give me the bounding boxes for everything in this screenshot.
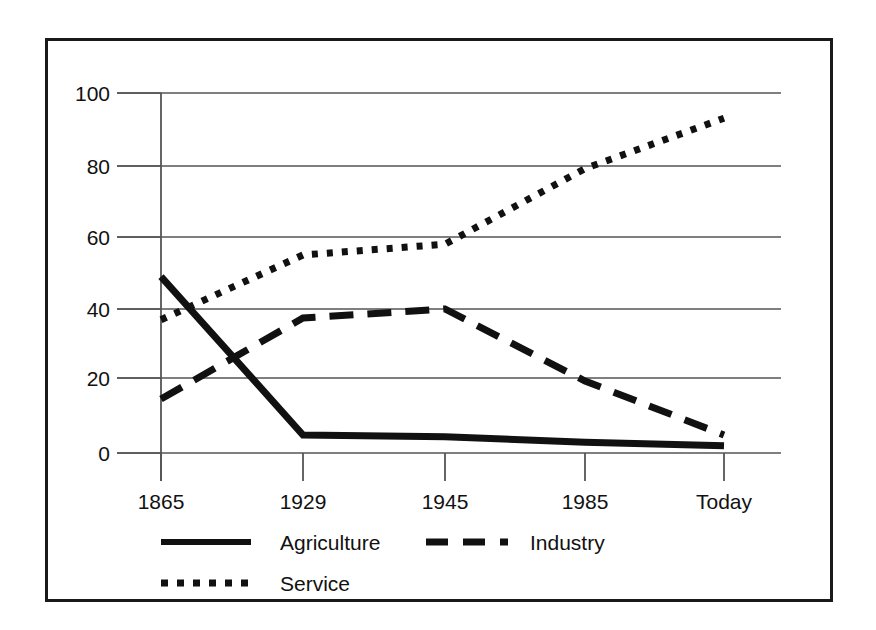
figure-frame: 100 80 60 40 20 0 1865 1929 1945 1985 To… xyxy=(45,38,833,602)
series-line-agriculture xyxy=(161,277,724,446)
series-line-service xyxy=(161,118,724,320)
legend-item-industry: Industry xyxy=(426,531,605,554)
y-tick-label-60: 60 xyxy=(87,226,110,249)
y-tick-label-40: 40 xyxy=(87,298,110,321)
chart-legend: Agriculture Industry Service xyxy=(161,531,605,595)
legend-label-industry: Industry xyxy=(530,531,605,554)
x-tick-label-1985: 1985 xyxy=(562,490,609,513)
y-tick-label-20: 20 xyxy=(87,367,110,390)
y-tick-label-80: 80 xyxy=(87,155,110,178)
x-tick-label-1945: 1945 xyxy=(422,490,469,513)
gridlines xyxy=(117,93,781,453)
legend-item-agriculture: Agriculture xyxy=(161,531,380,554)
line-chart: 100 80 60 40 20 0 1865 1929 1945 1985 To… xyxy=(48,41,830,599)
y-axis-tick-labels: 100 80 60 40 20 0 xyxy=(75,82,110,465)
legend-label-agriculture: Agriculture xyxy=(280,531,380,554)
y-axis-ticks xyxy=(117,93,161,453)
x-axis-ticks xyxy=(161,453,724,481)
x-tick-label-1865: 1865 xyxy=(138,490,185,513)
y-tick-label-100: 100 xyxy=(75,82,110,105)
legend-item-service: Service xyxy=(161,572,350,595)
y-tick-label-0: 0 xyxy=(98,442,110,465)
x-tick-label-1929: 1929 xyxy=(280,490,327,513)
legend-label-service: Service xyxy=(280,572,350,595)
x-tick-label-today: Today xyxy=(696,490,753,513)
x-axis-tick-labels: 1865 1929 1945 1985 Today xyxy=(138,490,753,513)
